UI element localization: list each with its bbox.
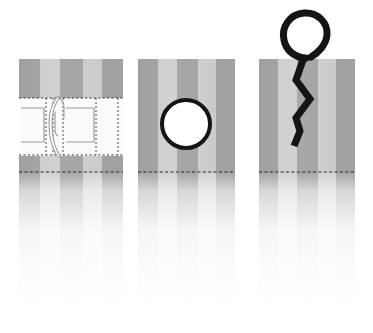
panel-3-fabric	[259, 59, 355, 173]
panel-3-group	[259, 13, 355, 301]
grommet-installation-diagram	[0, 0, 373, 333]
panel-1-guide-band	[19, 97, 123, 157]
illustration-canvas	[0, 0, 373, 333]
panel-2-reflection	[138, 173, 235, 301]
eyelet-ring	[162, 100, 210, 148]
panel-3-reflection	[259, 173, 355, 301]
split-ring	[283, 13, 327, 58]
panel-1-reflection	[19, 173, 123, 301]
panel-2-group	[138, 59, 235, 301]
panel-1-group	[19, 59, 123, 301]
